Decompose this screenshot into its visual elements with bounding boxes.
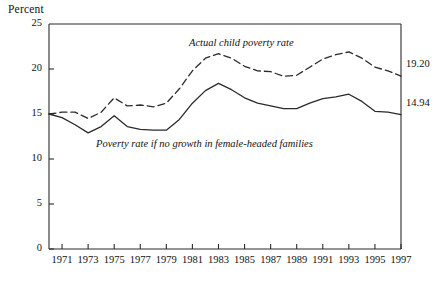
data-series-line [49, 83, 401, 132]
data-series-line [49, 52, 401, 119]
y-tick-label: 15 [10, 107, 42, 118]
data-series-group [49, 52, 401, 133]
y-tick-label: 20 [10, 62, 42, 73]
y-tick-marks [49, 69, 54, 249]
y-tick-label: 0 [10, 242, 42, 253]
x-tick-marks [62, 244, 401, 249]
series-end-value-label: 14.94 [406, 97, 430, 108]
series-end-value-label: 19.20 [406, 58, 430, 69]
y-tick-label: 25 [10, 17, 42, 28]
series-annotation-label: Actual child poverty rate [189, 37, 294, 48]
y-axis-title: Percent [8, 3, 44, 15]
x-tick-label: 1997 [379, 254, 423, 265]
y-tick-label: 10 [10, 152, 42, 163]
y-tick-label: 5 [10, 197, 42, 208]
axis-group [49, 24, 401, 249]
series-annotation-label: Poverty rate if no growth in female-head… [96, 138, 313, 149]
chart-figure: Percent 0510152025 197119731975197719791… [0, 0, 438, 284]
